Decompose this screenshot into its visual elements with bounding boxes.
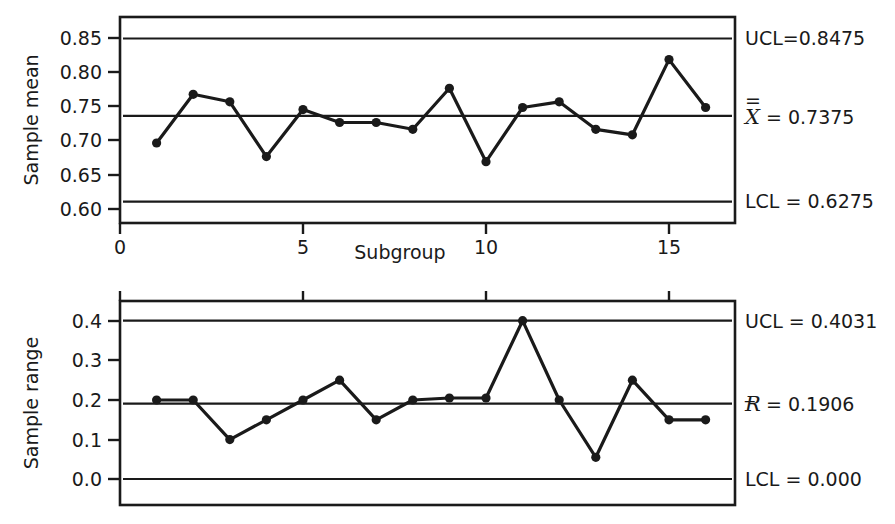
xbar-ytick-label-075: 0.75 [60,95,102,117]
xbar-center-label: = 0.7375 [766,106,854,128]
xbar-y-ticks [108,38,120,209]
r-x-ticks [120,291,669,301]
data-point [189,90,198,99]
data-point [225,435,234,444]
data-point [262,415,271,424]
r-ucl-label: UCL = 0.4031 [745,310,877,332]
data-point [481,393,490,402]
r-ytick-label-04: 0.4 [72,310,102,332]
xbar-ytick-label-080: 0.80 [60,61,102,83]
control-charts-svg: 0.85 0.80 0.75 0.70 0.65 0.60 Sample mea… [0,0,895,524]
data-point [664,55,673,64]
data-point [408,395,417,404]
data-point [701,415,710,424]
data-point [591,125,600,134]
data-point [664,415,673,424]
data-point [372,118,381,127]
xbar-x-ticks [120,223,669,234]
data-point [555,97,564,106]
data-point [298,105,307,114]
data-point [481,157,490,166]
data-point [555,395,564,404]
xbar-center-double-overbar: = [745,89,761,111]
r-y-ticks [108,321,120,479]
xbar-xtick-label-5: 5 [297,236,309,258]
data-point [701,103,710,112]
r-ytick-label-01: 0.1 [72,429,102,451]
r-ytick-label-03: 0.3 [72,349,102,371]
xbar-x-axis-title: Subgroup [354,241,445,263]
data-point [591,453,600,462]
xbar-plot-frame [120,17,735,223]
data-point [298,395,307,404]
xbar-xtick-label-10: 10 [474,236,498,258]
xbar-ucl-label: UCL=0.8475 [745,27,865,49]
data-point [445,84,454,93]
xbar-lcl-label: LCL = 0.6275 [745,190,874,212]
data-point [518,103,527,112]
data-point [335,376,344,385]
data-point [225,97,234,106]
data-point [335,118,344,127]
data-point [189,395,198,404]
xbar-data-line [157,60,706,162]
r-ytick-label-00: 0.0 [72,468,102,490]
xbar-ytick-label-085: 0.85 [60,27,102,49]
r-data-line [157,321,706,458]
r-center-label: = 0.1906 [766,393,854,415]
r-ytick-label-02: 0.2 [72,389,102,411]
xbar-ytick-label-065: 0.65 [60,164,102,186]
control-chart-figure: 0.85 0.80 0.75 0.70 0.65 0.60 Sample mea… [0,0,895,524]
r-chart-group: 0.4 0.3 0.2 0.1 0.0 Sample range [20,291,877,505]
data-point [628,376,637,385]
data-point [372,415,381,424]
data-point [262,152,271,161]
data-point [445,393,454,402]
r-lcl-label: LCL = 0.000 [745,468,862,490]
r-y-axis-title: Sample range [20,337,42,470]
xbar-xtick-label-15: 15 [657,236,681,258]
xbar-y-axis-title: Sample mean [20,54,42,185]
data-point [408,125,417,134]
r-center-overbar: _ [744,380,755,403]
data-point [628,130,637,139]
xbar-ytick-label-060: 0.60 [60,198,102,220]
data-point [152,138,161,147]
data-point [518,316,527,325]
data-point [152,395,161,404]
xbar-xtick-label-0: 0 [114,236,126,258]
xbar-ytick-label-070: 0.70 [60,129,102,151]
xbar-chart-group: 0.85 0.80 0.75 0.70 0.65 0.60 Sample mea… [20,17,874,263]
